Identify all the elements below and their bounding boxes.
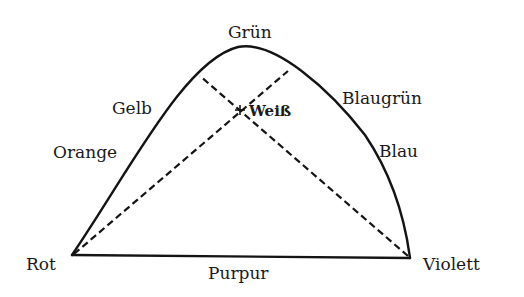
label-rot: Rot <box>26 254 56 274</box>
label-orange: Orange <box>53 142 117 162</box>
purple-line <box>72 255 410 258</box>
label-weiss: Weiß <box>248 102 291 120</box>
spectral-curve <box>72 46 410 258</box>
label-blau: Blau <box>379 141 418 161</box>
white-point-marker <box>235 105 245 115</box>
label-violett: Violett <box>422 254 480 274</box>
label-blaugruen: Blaugrün <box>342 88 422 108</box>
label-gelb: Gelb <box>112 98 152 118</box>
color-diagram: Grün Gelb Orange Rot Purpur Violett Blau… <box>0 0 524 297</box>
label-gruen: Grün <box>228 22 272 42</box>
label-purpur: Purpur <box>208 263 269 283</box>
dashed-line-red-complement <box>74 71 288 254</box>
